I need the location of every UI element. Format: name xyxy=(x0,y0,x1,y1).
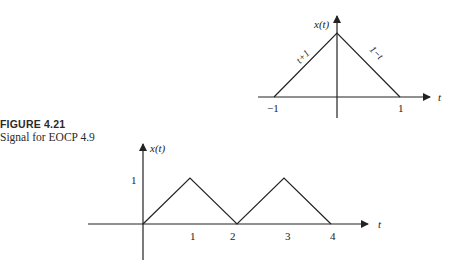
top-xlabel: t xyxy=(438,91,442,103)
bottom-plot: x(t) t 1 1 2 3 4 xyxy=(88,142,382,260)
top-left-slope-label: t+1 xyxy=(294,47,312,65)
top-right-slope-label: 1−t xyxy=(368,44,386,62)
top-tick-neg1: −1 xyxy=(267,102,279,114)
bottom-periodic-triangle-signal xyxy=(143,178,331,224)
bottom-xlabel: t xyxy=(378,218,382,230)
bottom-tick-1: 1 xyxy=(190,230,196,242)
top-plot: x(t) t −1 1 t+1 1−t xyxy=(258,16,442,118)
bottom-ylabel: x(t) xyxy=(149,142,166,155)
bottom-tick-2: 2 xyxy=(230,230,236,242)
bottom-ytick-1: 1 xyxy=(131,174,137,186)
figure-canvas: x(t) t −1 1 t+1 1−t x(t) t 1 1 2 3 4 xyxy=(0,0,462,265)
bottom-tick-3: 3 xyxy=(285,230,291,242)
bottom-tick-4: 4 xyxy=(330,230,336,242)
top-tick-1: 1 xyxy=(398,102,404,114)
top-ylabel: x(t) xyxy=(313,18,330,31)
